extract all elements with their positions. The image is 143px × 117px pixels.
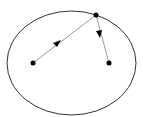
ellipse-diagram xyxy=(0,0,143,117)
ellipse-outline xyxy=(7,11,136,115)
left-focus-dot xyxy=(31,61,36,66)
incident-arrow-icon xyxy=(53,40,61,47)
reflected-ray xyxy=(96,15,109,63)
right-focus-dot xyxy=(107,61,112,66)
incident-ray xyxy=(33,15,96,63)
reflection-point-dot xyxy=(94,13,99,18)
